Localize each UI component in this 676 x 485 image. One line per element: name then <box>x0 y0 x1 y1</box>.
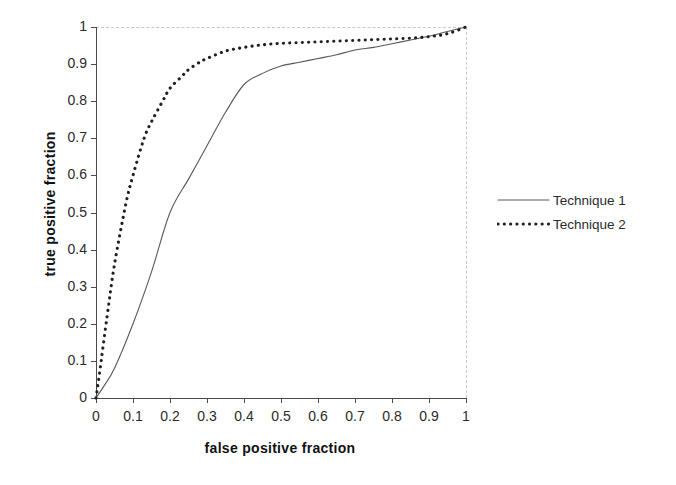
legend-swatch-solid-line-icon <box>497 194 550 206</box>
legend-swatch-dotted-line-icon <box>497 218 550 230</box>
x-axis-title: false positive fraction <box>0 440 560 456</box>
series-technique-2-line <box>96 27 466 398</box>
legend-label: Technique 1 <box>550 193 626 208</box>
legend-label: Technique 2 <box>550 217 626 232</box>
legend-item: Technique 2 <box>497 212 672 236</box>
curves-layer <box>0 0 676 485</box>
series-technique-1-line <box>96 27 466 398</box>
roc-chart-figure: 00.10.20.30.40.50.60.70.80.9100.10.20.30… <box>0 0 676 485</box>
legend-item: Technique 1 <box>497 188 672 212</box>
y-axis-title: true positive fraction <box>42 79 58 329</box>
legend: Technique 1Technique 2 <box>497 188 672 236</box>
